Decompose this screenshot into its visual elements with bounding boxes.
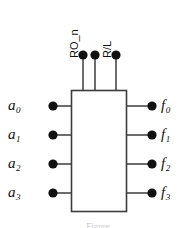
output-base-f0: f (161, 97, 165, 113)
output-base-f1: f (161, 126, 165, 142)
output-label-f1: f1 (161, 127, 170, 142)
schematic-figure: RO_n R/L a0 a1 a2 a3 f0 f1 f2 f3 Figure (0, 0, 196, 228)
output-sub-f1: 1 (166, 134, 171, 144)
terminal-f2[interactable] (147, 159, 156, 168)
pin-label-ro-n: RO_n (69, 29, 80, 58)
input-sub-a0: 0 (16, 105, 21, 115)
input-base-a1: a (8, 126, 16, 142)
output-label-f2: f2 (161, 156, 170, 171)
input-sub-a2: 2 (16, 163, 21, 173)
output-base-f3: f (161, 184, 165, 200)
input-base-a0: a (8, 97, 16, 113)
terminal-f3[interactable] (147, 188, 156, 197)
terminal-a2[interactable] (48, 159, 57, 168)
input-label-a0: a0 (8, 98, 20, 113)
terminal-ro-n-secondary[interactable] (90, 50, 99, 59)
input-label-a3: a3 (8, 185, 20, 200)
output-sub-f3: 3 (166, 192, 171, 202)
terminal-a1[interactable] (48, 130, 57, 139)
terminal-f0[interactable] (147, 101, 156, 110)
terminal-a0[interactable] (48, 101, 57, 110)
output-sub-f2: 2 (166, 163, 171, 173)
terminal-a3[interactable] (48, 188, 57, 197)
output-base-f2: f (161, 155, 165, 171)
terminal-f1[interactable] (147, 130, 156, 139)
output-label-f0: f0 (161, 98, 170, 113)
pin-label-r-l: R/L (102, 41, 113, 58)
input-label-a2: a2 (8, 156, 20, 171)
caption-fragment: Figure (0, 222, 196, 228)
input-sub-a1: 1 (16, 134, 21, 144)
input-base-a2: a (8, 155, 16, 171)
input-base-a3: a (8, 184, 16, 200)
output-sub-f0: 0 (166, 105, 171, 115)
input-sub-a3: 3 (16, 192, 21, 202)
output-label-f3: f3 (161, 185, 170, 200)
input-label-a1: a1 (8, 127, 20, 142)
function-block[interactable] (72, 91, 127, 212)
